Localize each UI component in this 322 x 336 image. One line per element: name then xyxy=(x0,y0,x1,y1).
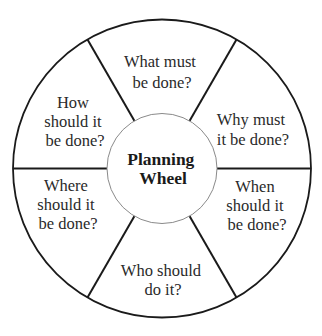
segment-how-line2: should it xyxy=(44,112,102,131)
segment-when-label: When should it be done? xyxy=(226,177,287,234)
segment-where-line2: should it xyxy=(37,195,95,214)
segment-why-line1: Why must xyxy=(217,110,286,129)
segment-why-label: Why must it be done? xyxy=(217,110,289,149)
planning-wheel-diagram: Planning Wheel What must be done? Why mu… xyxy=(0,0,322,336)
segment-when-line2: should it xyxy=(226,196,284,215)
segment-where-line1: Where xyxy=(44,176,88,195)
center-label-line2: Wheel xyxy=(139,168,187,188)
segment-how-line3: be done? xyxy=(45,131,104,150)
segment-where-line3: be done? xyxy=(38,214,97,233)
segment-who-line2: do it? xyxy=(144,280,181,299)
center-label-line1: Planning xyxy=(127,149,194,169)
segment-where-label: Where should it be done? xyxy=(37,176,98,233)
segment-what-line2: be done? xyxy=(132,73,191,92)
segment-when-line1: When xyxy=(235,177,274,196)
segment-how-line1: How xyxy=(57,93,89,112)
segment-what-line1: What must xyxy=(124,52,196,71)
segment-who-line1: Who should xyxy=(121,261,202,280)
segment-when-line3: be done? xyxy=(227,215,286,234)
segment-why-line2: it be done? xyxy=(217,130,289,149)
